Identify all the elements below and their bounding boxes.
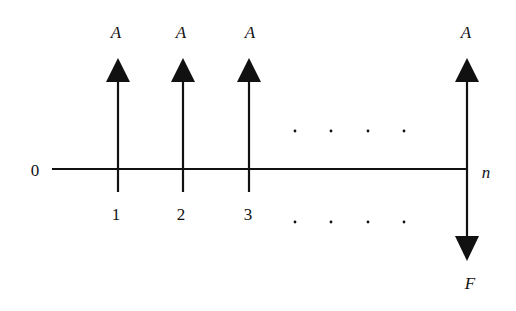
flow-label-n-down: F bbox=[465, 275, 475, 292]
flow-label-2: A bbox=[176, 24, 186, 41]
cash-flow-diagram bbox=[0, 0, 516, 311]
ellipsis-dots-upper bbox=[294, 130, 406, 133]
period-index-1: 1 bbox=[112, 206, 121, 223]
origin-label: 0 bbox=[31, 162, 40, 179]
cash-flow-arrow-n bbox=[455, 58, 479, 261]
period-index-3: 3 bbox=[244, 206, 253, 223]
cash-flow-arrow-3 bbox=[237, 58, 261, 192]
cash-flow-arrow-2 bbox=[171, 58, 195, 192]
flow-label-n-up: A bbox=[461, 24, 471, 41]
cash-flow-arrow-1 bbox=[106, 58, 130, 192]
end-period-label: n bbox=[482, 164, 491, 181]
period-index-2: 2 bbox=[177, 206, 186, 223]
flow-label-1: A bbox=[111, 24, 121, 41]
ellipsis-dots-lower bbox=[294, 221, 406, 224]
flow-label-3: A bbox=[245, 24, 255, 41]
